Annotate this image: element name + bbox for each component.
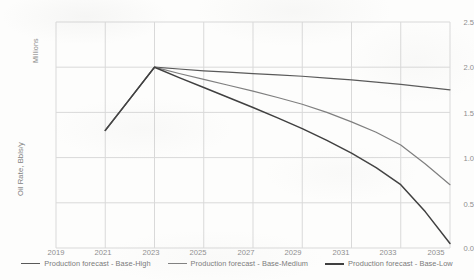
x-tick-label: 2033 <box>368 248 408 257</box>
vertical-gridlines <box>56 22 450 248</box>
legend-swatch-base-medium <box>168 263 187 264</box>
y-tick-label: 0.5 <box>430 200 474 209</box>
plot-area <box>0 0 474 280</box>
legend-item-base-medium[interactable]: Production forecast - Base-Medium <box>168 259 309 268</box>
legend-label-base-medium: Production forecast - Base-Medium <box>191 259 309 268</box>
x-tick-label: 2023 <box>131 248 171 257</box>
x-tick-label: 2031 <box>321 248 361 257</box>
legend-label-base-high: Production forecast - Base-High <box>44 259 150 268</box>
x-tick-label: 2021 <box>83 248 123 257</box>
chart-legend: Production forecast - Base-High Producti… <box>0 259 474 268</box>
legend-label-base-low: Production forecast - Base-Low <box>348 259 453 268</box>
y-axis-units-label: Millions <box>31 38 40 63</box>
x-tick-label: 2019 <box>36 248 76 257</box>
legend-item-base-high[interactable]: Production forecast - Base-High <box>21 259 150 268</box>
y-tick-label: 2.0 <box>430 63 474 72</box>
x-tick-label: 2035 <box>416 248 456 257</box>
series-line <box>105 67 450 185</box>
y-tick-label: 1.5 <box>430 109 474 118</box>
legend-item-base-low[interactable]: Production forecast - Base-Low <box>325 259 453 268</box>
series-line <box>105 67 450 130</box>
y-axis-title: Oil Rate, Bbls/y <box>16 142 25 196</box>
legend-swatch-base-low <box>325 263 344 265</box>
series-lines <box>105 67 450 243</box>
y-tick-label: 1.0 <box>430 154 474 163</box>
y-tick-label: 2.5 <box>430 18 474 27</box>
x-tick-label: 2027 <box>226 248 266 257</box>
x-tick-label: 2029 <box>273 248 313 257</box>
legend-swatch-base-high <box>21 263 40 264</box>
series-line <box>105 67 450 243</box>
x-tick-label: 2025 <box>178 248 218 257</box>
chart-container: Oil Rate, Bbls/y Millions 2.5 2.0 1.5 1.… <box>0 0 474 280</box>
